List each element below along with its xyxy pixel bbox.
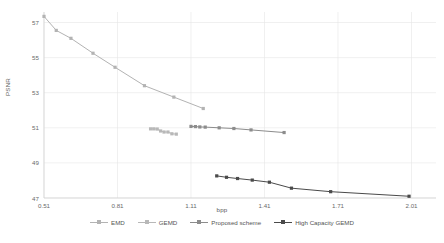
legend-item-high-capacity-gemd[interactable]: High Capacity GEMD <box>274 219 354 226</box>
legend-marker-icon <box>138 219 156 226</box>
legend-marker-icon <box>90 219 108 226</box>
y-tick-label: 51 <box>13 124 39 131</box>
psnr-vs-bpp-chart: 4749515355570.510.811.111.411.712.01 PSN… <box>0 0 444 243</box>
y-tick-label: 47 <box>13 195 39 202</box>
series-proposed-scheme <box>189 125 285 134</box>
y-tick-label: 55 <box>13 54 39 61</box>
legend-item-gemd[interactable]: GEMD <box>138 219 178 226</box>
y-tick-label: 57 <box>13 19 39 26</box>
y-tick-label: 53 <box>13 89 39 96</box>
legend-marker-icon <box>274 219 292 226</box>
legend-label: Proposed scheme <box>211 219 261 226</box>
legend-marker-icon <box>190 219 208 226</box>
axis-lines <box>44 12 436 198</box>
legend-label: EMD <box>111 219 125 226</box>
legend-label: GEMD <box>159 219 178 226</box>
y-tick-label: 49 <box>13 159 39 166</box>
legend-item-emd[interactable]: EMD <box>90 219 125 226</box>
x-axis-title: bpp <box>0 206 444 213</box>
legend-item-proposed-scheme[interactable]: Proposed scheme <box>190 219 261 226</box>
series-gemd <box>149 127 178 135</box>
series-emd <box>42 15 204 110</box>
gridlines <box>44 12 436 198</box>
y-axis-title: PSNR <box>4 78 11 96</box>
chart-legend: EMDGEMDProposed schemeHigh Capacity GEMD <box>0 219 444 226</box>
data-series-layer <box>42 15 410 198</box>
series-high-capacity-gemd <box>215 174 411 198</box>
legend-label: High Capacity GEMD <box>295 219 354 226</box>
